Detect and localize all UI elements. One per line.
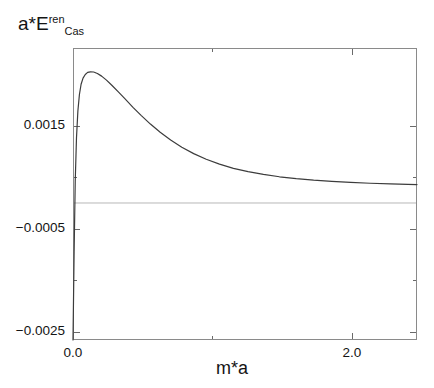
x-axis-label: m*a (216, 358, 248, 379)
y-tick-label-0: 0.0015 (24, 117, 65, 132)
plot-frame (74, 49, 417, 340)
x-axis-label-wrapper: m*a (0, 358, 434, 379)
casimir-energy-figure: a*ErenCas 0.0015−0.0005−0.0025 0.02.0 m*… (0, 0, 434, 388)
plot-canvas (0, 0, 434, 388)
y-tick-label-1: −0.0005 (16, 220, 65, 235)
y-tick-label-2: −0.0025 (16, 323, 65, 338)
tick-mark-group (73, 48, 417, 340)
data-series-group (73, 72, 417, 340)
series-line-0 (73, 72, 417, 340)
